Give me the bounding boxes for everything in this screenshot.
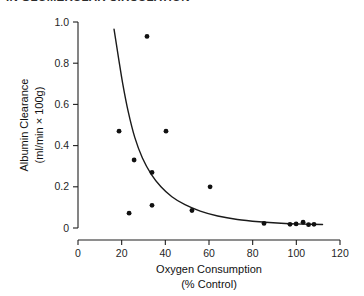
y-axis-title-line2: (ml/min × 100g)	[33, 87, 45, 164]
x-tick-label: 100	[288, 247, 306, 259]
data-point	[150, 203, 155, 208]
data-point	[312, 222, 317, 227]
x-tick-label: 120	[331, 247, 349, 259]
data-point	[127, 211, 132, 216]
figure-container: IN GLOMERULAR CIRCULATION 00.20.40.60.81…	[0, 0, 364, 296]
y-tick-label: 0.4	[54, 139, 69, 151]
y-tick-label: 0	[63, 222, 69, 234]
y-axis-title: Albumin Clearance (ml/min × 100g)	[18, 79, 45, 172]
data-point	[288, 222, 293, 227]
data-point-group	[117, 34, 317, 227]
data-point	[208, 184, 213, 189]
x-axis-ticks: 020406080100120	[75, 240, 349, 259]
x-tick-label: 60	[203, 247, 215, 259]
y-tick-label: 1.0	[54, 16, 69, 28]
x-axis-title-line1: Oxygen Consumption	[156, 263, 262, 275]
y-tick-label: 0.2	[54, 180, 69, 192]
data-point	[294, 221, 299, 226]
data-point	[262, 221, 267, 226]
data-point	[190, 208, 195, 213]
scatter-plot: 00.20.40.60.81.0 020406080100120 Albumin…	[0, 0, 364, 296]
x-tick-label: 0	[75, 247, 81, 259]
data-point	[306, 222, 311, 227]
data-point	[132, 158, 137, 163]
fit-curve	[114, 29, 323, 224]
y-axis-title-line1: Albumin Clearance	[18, 79, 30, 172]
x-axis-title: Oxygen Consumption (% Control)	[156, 263, 262, 290]
data-point	[145, 34, 150, 39]
y-axis-ticks: 00.20.40.60.81.0	[54, 16, 78, 234]
x-tick-label: 80	[247, 247, 259, 259]
data-point	[150, 170, 155, 175]
y-tick-label: 0.8	[54, 57, 69, 69]
data-point	[164, 129, 169, 134]
y-tick-label: 0.6	[54, 98, 69, 110]
data-point	[301, 220, 306, 225]
x-tick-label: 40	[159, 247, 171, 259]
x-tick-label: 20	[116, 247, 128, 259]
data-point	[117, 129, 122, 134]
x-axis-title-line2: (% Control)	[181, 278, 237, 290]
